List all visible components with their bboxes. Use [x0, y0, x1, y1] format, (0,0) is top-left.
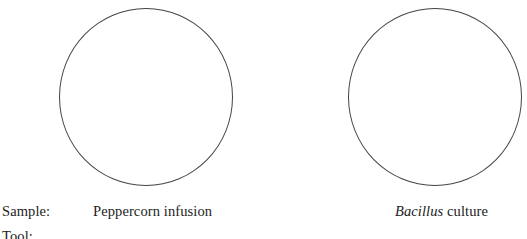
- genus-name: Bacillus: [395, 203, 443, 219]
- sample-circle-peppercorn: [59, 8, 233, 186]
- sample-row-label: Sample:: [2, 203, 50, 220]
- sample-name-peppercorn: Peppercorn infusion: [93, 203, 212, 220]
- sample-name-text: Peppercorn infusion: [93, 203, 212, 219]
- sample-circle-bacillus: [348, 8, 522, 186]
- sample-name-bacillus: Bacillus culture: [395, 203, 488, 220]
- tool-row-label: Tool:: [2, 228, 33, 239]
- sample-name-text: culture: [443, 203, 488, 219]
